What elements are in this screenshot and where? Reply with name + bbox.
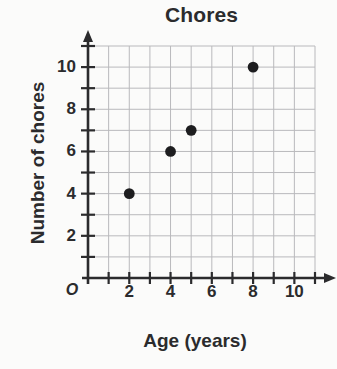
data-point (124, 188, 135, 199)
data-point (165, 146, 176, 157)
x-tick-label: 10 (279, 282, 309, 302)
axis-ticks (81, 46, 315, 284)
y-axis-arrowhead (83, 30, 93, 42)
scatter-plot-figure: Chores Number of chores Age (years) O 24… (0, 0, 337, 369)
y-tick-label: 8 (44, 99, 76, 119)
y-tick-label: 6 (44, 141, 76, 161)
x-tick-label: 6 (197, 282, 227, 302)
axis-lines (82, 30, 336, 284)
y-tick-label: 10 (44, 57, 76, 77)
data-point (248, 62, 259, 73)
y-tick-label: 2 (44, 226, 76, 246)
x-axis-arrowhead (324, 273, 336, 283)
y-tick-label: 4 (44, 184, 76, 204)
x-tick-label: 2 (114, 282, 144, 302)
data-point (186, 125, 197, 136)
grid-lines (88, 46, 315, 278)
x-tick-label: 8 (238, 282, 268, 302)
x-tick-label: 4 (156, 282, 186, 302)
